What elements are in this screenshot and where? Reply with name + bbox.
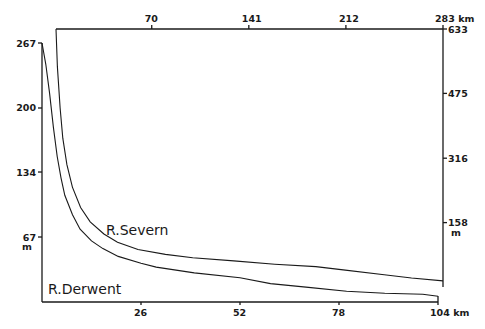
top-x-ticks: 70141212283 km <box>145 13 475 29</box>
derwent-label: R.Derwent <box>48 281 122 297</box>
severn-profile-line <box>56 29 443 281</box>
bottom-x-tick-label: 52 <box>233 307 246 318</box>
right-y-ticks: 158m316475633 <box>443 24 468 238</box>
bottom-x-tick-label: 78 <box>332 307 346 318</box>
bottom-x-tick-label: 104 km <box>430 307 469 318</box>
bottom-x-ticks: 265278104 km <box>134 302 469 318</box>
right-y-tick-label: 316 <box>448 153 468 164</box>
right-y-unit-label: m <box>451 227 461 238</box>
derwent-profile-line <box>42 43 438 296</box>
top-x-tick-label: 283 km <box>435 13 474 24</box>
top-x-tick-label: 212 <box>339 13 359 24</box>
left-y-unit-label: m <box>22 241 32 252</box>
derwent-axes: 67m134200267 265278104 km <box>16 38 469 319</box>
left-y-ticks: 67m134200267 <box>16 38 42 253</box>
right-y-tick-label: 475 <box>448 88 468 99</box>
left-y-tick-label: 200 <box>16 102 36 113</box>
bottom-x-tick-label: 26 <box>134 307 148 318</box>
right-y-tick-label: 633 <box>448 24 468 35</box>
severn-axes: 70141212283 km 158m316475633 <box>56 13 474 287</box>
left-y-tick-label: 267 <box>16 38 36 49</box>
left-y-tick-label: 134 <box>16 167 36 178</box>
top-x-tick-label: 141 <box>242 13 262 24</box>
top-x-tick-label: 70 <box>145 13 159 24</box>
river-long-profile-chart: 67m134200267 265278104 km 70141212283 km… <box>0 0 485 329</box>
severn-label: R.Severn <box>106 222 168 238</box>
